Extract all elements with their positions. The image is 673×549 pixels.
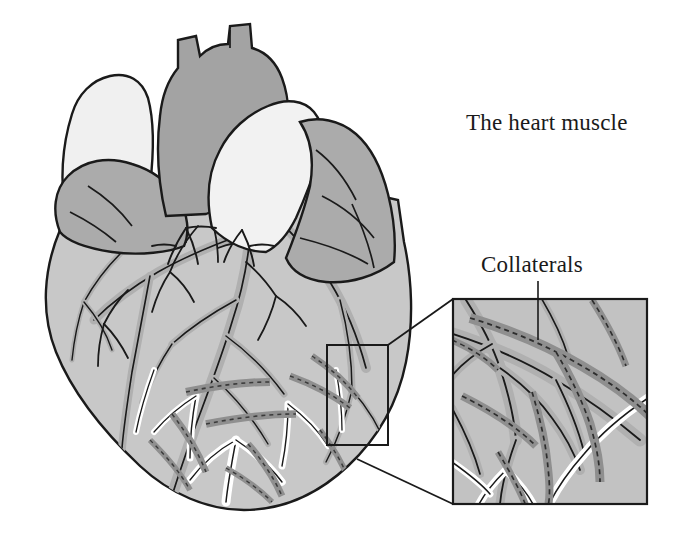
inset-detail-panel (440, 296, 652, 506)
heart-organ (46, 24, 411, 510)
illustration-canvas: The heart muscle Collaterals (0, 0, 673, 549)
inset-connector-bottom (357, 459, 453, 504)
heart-muscle-figure: The heart muscle Collaterals (0, 0, 673, 549)
collaterals-label: Collaterals (481, 252, 583, 277)
page-title: The heart muscle (466, 110, 628, 135)
